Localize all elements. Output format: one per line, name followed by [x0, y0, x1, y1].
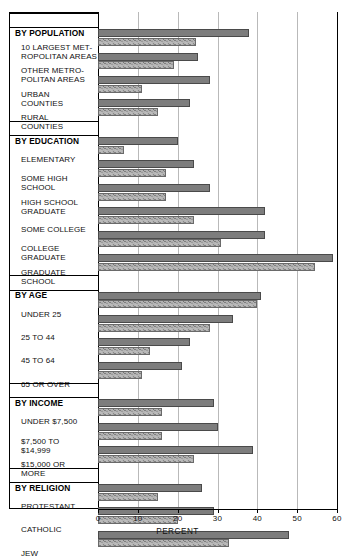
- tick-label-40: 40: [244, 514, 270, 523]
- category-label: RURALCOUNTIES: [10, 113, 102, 131]
- category-label-line: 65 OR OVER: [21, 380, 102, 389]
- bar-series-b: [98, 169, 166, 177]
- category-label: UNDER $7,500: [10, 417, 102, 426]
- tick-label-60: 60: [324, 514, 350, 523]
- category-label-line: JEW: [21, 549, 102, 558]
- group-heading: BY AGE: [10, 291, 99, 300]
- bar-series-b: [98, 371, 142, 379]
- category-label-line: OTHER METRO-: [21, 66, 102, 75]
- category-label: 10 LARGEST MET-ROPOLITAN AREAS: [10, 43, 102, 61]
- bar-series-b: [98, 216, 194, 224]
- bar-series-b: [98, 493, 158, 501]
- category-label-line: $14,999: [21, 446, 102, 455]
- bar-series-b: [98, 108, 158, 116]
- bar-series-b: [98, 38, 196, 46]
- bar-series-a: [98, 254, 333, 262]
- group-heading: BY INCOME: [10, 399, 99, 408]
- tick-label-10: 10: [125, 514, 151, 523]
- category-label-line: GRADUATE: [21, 253, 102, 262]
- bar-series-a: [98, 231, 265, 239]
- category-label-line: HIGH SCHOOL: [21, 198, 102, 207]
- group-heading: BY EDUCATION: [10, 137, 99, 146]
- group-divider: [10, 275, 99, 276]
- bar-series-a: [98, 207, 265, 215]
- tick-mark-40: [257, 509, 258, 513]
- category-label-line: 45 TO 64: [21, 356, 102, 365]
- category-label-line: UNDER 25: [21, 310, 102, 319]
- category-label: 45 TO 64: [10, 356, 102, 365]
- category-label: OTHER METRO-POLITAN AREAS: [10, 66, 102, 84]
- group-divider: [10, 121, 99, 122]
- bar-series-a: [98, 184, 210, 192]
- category-label: COLLEGEGRADUATE: [10, 244, 102, 262]
- bar-series-a: [98, 362, 182, 370]
- category-label: HIGH SCHOOLGRADUATE: [10, 198, 102, 216]
- tick-label-30: 30: [205, 514, 231, 523]
- category-label: SOME HIGHSCHOOL: [10, 174, 102, 192]
- bar-series-b: [98, 146, 124, 154]
- tick-mark-60: [337, 509, 338, 513]
- tick-label-0: 0: [85, 514, 111, 523]
- category-label: PROTESTANT: [10, 502, 102, 511]
- group-divider: [10, 13, 99, 14]
- bar-series-a: [98, 99, 190, 107]
- category-label-line: SOME COLLEGE: [21, 225, 102, 234]
- category-label: JEW: [10, 549, 102, 558]
- group-divider: [10, 397, 99, 398]
- tick-mark-20: [178, 509, 179, 513]
- group-heading: BY RELIGION: [10, 484, 99, 493]
- plot-area: [98, 12, 337, 509]
- gridline-60: [337, 12, 338, 509]
- category-label-line: 10 LARGEST MET-: [21, 43, 102, 52]
- category-label-line: $7,500 TO: [21, 437, 102, 446]
- category-label: 65 OR OVER: [10, 380, 102, 389]
- group-divider: [10, 135, 99, 136]
- x-axis-title: PERCENT: [0, 527, 355, 536]
- category-label-line: POLITAN AREAS: [21, 75, 102, 84]
- group-divider: [10, 27, 99, 28]
- tick-mark-30: [218, 509, 219, 513]
- bar-series-b: [98, 347, 150, 355]
- bar-series-a: [98, 315, 233, 323]
- tick-label-20: 20: [165, 514, 191, 523]
- group-divider: [10, 482, 99, 483]
- category-label-line: MORE: [21, 469, 102, 478]
- category-label-line: COUNTIES: [21, 99, 102, 108]
- bar-series-a: [98, 423, 218, 431]
- bar-series-a: [98, 29, 249, 37]
- bar-series-b: [98, 85, 142, 93]
- bar-series-a: [98, 292, 261, 300]
- category-label-line: SOME HIGH: [21, 174, 102, 183]
- category-label-panel: BY POPULATION10 LARGEST MET-ROPOLITAN AR…: [9, 12, 98, 509]
- category-label-line: COUNTIES: [21, 122, 102, 131]
- bar-series-a: [98, 53, 198, 61]
- bar-series-b: [98, 300, 257, 308]
- category-label: SOME COLLEGE: [10, 225, 102, 234]
- category-label: $7,500 TO$14,999: [10, 437, 102, 455]
- category-label: ELEMENTARY: [10, 155, 102, 164]
- category-label-line: COLLEGE: [21, 244, 102, 253]
- category-label-line: ELEMENTARY: [21, 155, 102, 164]
- bar-series-a: [98, 338, 190, 346]
- bar-series-b: [98, 455, 194, 463]
- bar-series-a: [98, 484, 202, 492]
- tick-mark-10: [138, 509, 139, 513]
- category-label: GRADUATESCHOOL: [10, 268, 102, 286]
- group-divider: [10, 290, 99, 291]
- category-label: URBANCOUNTIES: [10, 90, 102, 108]
- bar-series-b: [98, 432, 162, 440]
- category-label-line: 25 TO 44: [21, 333, 102, 342]
- bar-series-a: [98, 160, 194, 168]
- bar-series-b: [98, 408, 162, 416]
- bar-series-a: [98, 446, 253, 454]
- bar-series-a: [98, 137, 178, 145]
- group-heading: BY POPULATION: [10, 29, 99, 38]
- bar-series-a: [98, 399, 214, 407]
- bar-series-b: [98, 324, 210, 332]
- category-label-line: ROPOLITAN AREAS: [21, 52, 102, 61]
- tick-mark-50: [297, 509, 298, 513]
- category-label-line: SCHOOL: [21, 277, 102, 286]
- category-label-line: PROTESTANT: [21, 502, 102, 511]
- category-label-line: UNDER $7,500: [21, 417, 102, 426]
